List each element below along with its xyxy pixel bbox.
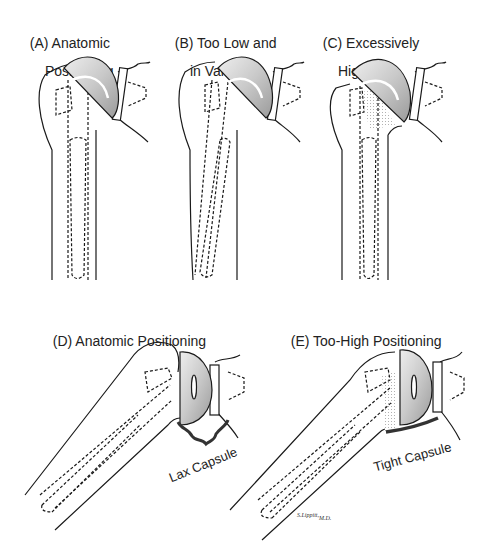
- panel-b-illustration: [179, 57, 304, 280]
- panel-d-illustration: [25, 342, 244, 530]
- artist-signature: S.Lippitt,M.D.: [297, 512, 331, 518]
- signature-suffix: M.D.: [319, 515, 331, 521]
- panel-e-annotation: Tight Capsule: [372, 439, 453, 474]
- illustration-canvas: Lax Capsule Tight Capsule: [0, 0, 484, 558]
- panel-d-annotation: Lax Capsule: [167, 444, 240, 485]
- glenoid-e: [440, 352, 462, 440]
- humerus-outline-b: [179, 62, 237, 280]
- signature-name: S.Lippitt,: [297, 512, 319, 518]
- implant-head-b: [218, 57, 273, 118]
- panel-c-illustration: [330, 59, 446, 280]
- panel-a-illustration: [39, 57, 150, 280]
